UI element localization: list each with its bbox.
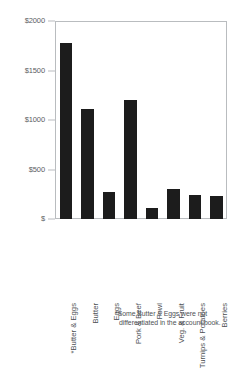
y-axis-tick-mark — [48, 120, 55, 121]
y-axis-tick-label: $1500 — [25, 67, 45, 75]
y-axis-tick-mark — [48, 169, 55, 170]
y-axis-tick-mark — [48, 21, 55, 22]
bars-layer — [55, 21, 227, 219]
y-axis-tick-label: $ — [41, 215, 45, 223]
footnote-line-1: *Some Butter & Eggs were not — [115, 309, 240, 318]
bar-pork-and-beef — [124, 100, 137, 219]
y-axis-tick-mark — [48, 219, 55, 220]
bar-eggs — [103, 192, 116, 219]
x-axis-tick-label: *Butter & Eggs — [69, 303, 78, 354]
bar-butter — [81, 109, 94, 219]
y-axis-tick-mark — [48, 70, 55, 71]
bar-veg-and-fruit — [167, 189, 180, 219]
y-axis-tick-label: $2000 — [25, 17, 45, 25]
bar-berries — [210, 196, 223, 219]
y-axis-tick-label: $1000 — [25, 116, 45, 124]
chart-footnote: *Some Butter & Eggs were not differentia… — [115, 309, 240, 327]
y-axis: $2000 $1500 $1000 $500 $ — [0, 0, 55, 230]
y-axis-tick-label: $500 — [29, 166, 45, 174]
x-axis: *Butter & Eggs Butter Eggs Pork & Beef F… — [55, 221, 227, 303]
bar-butter-and-eggs — [60, 43, 73, 219]
bar-fowl — [146, 208, 159, 219]
footnote-line-2: differentiated in the account book. — [115, 318, 240, 327]
bar-turnips-and-potatoes — [189, 195, 202, 219]
x-axis-tick-label: Butter — [91, 303, 100, 324]
